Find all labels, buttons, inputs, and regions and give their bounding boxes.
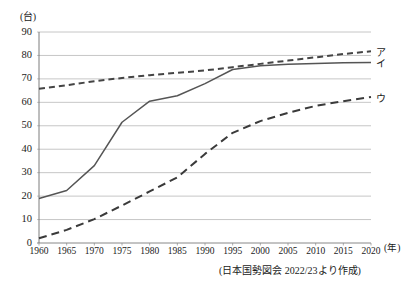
x-axis-unit-label: (年) <box>384 240 400 254</box>
y-tick-label: 0 <box>8 237 32 248</box>
x-tick-label: 2005 <box>279 246 298 256</box>
x-tick-label: 1970 <box>85 246 104 256</box>
series-line-2 <box>39 97 371 238</box>
y-tick-label: 50 <box>8 119 32 130</box>
y-tick-label: 20 <box>8 190 32 201</box>
y-tick-label: 80 <box>8 49 32 60</box>
series-label-イ: イ <box>376 55 386 70</box>
x-tick-label: 1990 <box>196 246 215 256</box>
x-tick-label: 2015 <box>334 246 353 256</box>
source-note: (日本国勢図会 2022/23より作成) <box>219 262 361 277</box>
y-tick-label: 90 <box>8 26 32 37</box>
chart-plot-area <box>0 0 415 283</box>
x-tick-label: 2000 <box>251 246 270 256</box>
x-tick-label: 1975 <box>113 246 132 256</box>
series-label-ウ: ウ <box>376 90 386 105</box>
x-tick-label: 1995 <box>223 246 242 256</box>
x-tick-label: 2020 <box>362 246 381 256</box>
x-tick-label: 1965 <box>57 246 76 256</box>
y-tick-label: 40 <box>8 143 32 154</box>
y-tick-label: 30 <box>8 166 32 177</box>
x-tick-label: 1985 <box>168 246 187 256</box>
x-tick-label: 1960 <box>30 246 49 256</box>
y-tick-label: 70 <box>8 72 32 83</box>
line-chart: (台) 0102030405060708090 1960196519701975… <box>0 0 415 283</box>
x-tick-label: 2010 <box>306 246 325 256</box>
y-tick-label: 10 <box>8 213 32 224</box>
y-tick-label: 60 <box>8 96 32 107</box>
x-tick-label: 1980 <box>140 246 159 256</box>
